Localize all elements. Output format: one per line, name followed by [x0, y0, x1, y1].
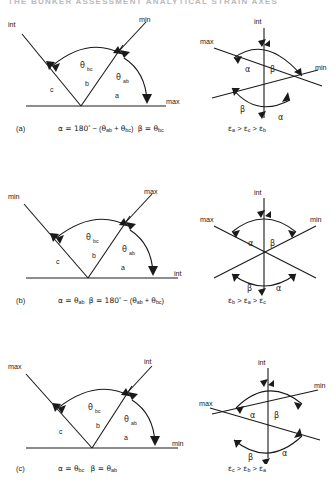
angle-alpha-top-b: α: [248, 239, 253, 248]
formula-a: α = 180° − (θab + θbc) β = θbc: [58, 124, 164, 133]
angle-theta-bc-sub-b: bc: [93, 238, 99, 244]
epsilon-c-op2: >: [253, 464, 257, 473]
formula-c: α = θbc β = θab: [58, 464, 117, 473]
stereonet-a: int max min α β β α: [198, 14, 334, 124]
angle-theta-bc-b: θ: [86, 233, 91, 242]
angle-theta-ab-c: θ: [124, 415, 129, 424]
arrowhead-bot-mid-b: [258, 288, 266, 296]
axis-max-a: [214, 48, 322, 86]
running-head: THE BUNKER ASSESSMENT ANALYTICAL STRAIN …: [0, 0, 336, 9]
fan-diagram-a: int min max c b a θ bc θ ab: [6, 14, 191, 122]
label-min-a: min: [315, 63, 327, 72]
arc-top-c: [236, 391, 302, 408]
angle-beta-top-c: β: [274, 411, 279, 420]
epsilon-a-op2: >: [253, 124, 257, 133]
axis-label-c-a: c: [50, 86, 54, 93]
angle-theta-bc-c: θ: [88, 403, 93, 412]
formula-c-beta: β =: [91, 464, 107, 473]
angle-theta-ab-sub-c: ab: [131, 420, 137, 426]
label-int-c: int: [258, 358, 266, 367]
axis-label-c-c: c: [59, 428, 63, 435]
fan-diagram-b: min max int c b a θ bc θ ab: [6, 186, 191, 294]
arrowhead-bot-mid-a: [258, 111, 266, 119]
angle-theta-bc-sub-c: bc: [95, 408, 101, 414]
arrowhead-top-mid-left-a: [258, 39, 266, 47]
arrowhead-top-mid-right-b: [265, 211, 271, 218]
angle-beta-top-a: β: [270, 65, 275, 74]
epsilon-c-3-sub: a: [263, 467, 266, 473]
figure-row-c: max int min c b a θ bc θ ab int: [0, 352, 336, 482]
formula-a-beta-sub: bc: [158, 127, 164, 133]
formula-b-plus: +: [143, 296, 152, 305]
formula-a-close: ): [131, 124, 134, 133]
tip-label-max-c: max: [8, 362, 22, 371]
angle-beta-bottom-a: β: [240, 105, 245, 114]
angle-theta-ab-b: θ: [122, 245, 127, 254]
tip-label-max-a: max: [166, 97, 180, 106]
row-label-a: (a): [16, 124, 25, 133]
angle-alpha-bottom-b: α: [276, 284, 281, 293]
arrowhead-top-mid-right-c: [268, 380, 274, 387]
arrowhead-ab-bottom-b: [148, 266, 158, 276]
angle-beta-bottom-b: β: [247, 284, 252, 293]
epsilon-b-op1: >: [237, 296, 241, 305]
ray-c-c: [26, 374, 92, 448]
ray-min-a: [119, 22, 146, 51]
arc-theta-bc-a: [52, 47, 122, 66]
tip-label-int-b: int: [174, 269, 182, 278]
running-head-text: THE BUNKER ASSESSMENT ANALYTICAL STRAIN …: [8, 0, 278, 6]
axis-label-c-b: c: [56, 258, 60, 265]
formula-a-open: − (: [90, 124, 101, 133]
formula-a-plus: +: [112, 124, 121, 133]
stereonet-b: int max min α β β α: [198, 186, 334, 296]
tip-label-max-b: max: [144, 187, 158, 196]
axis-label-a-c: a: [124, 434, 128, 441]
ray-max-b: [126, 194, 152, 222]
label-max-b: max: [200, 215, 214, 224]
angle-alpha-top-c: α: [250, 411, 255, 420]
formula-c-alpha-sub: bc: [79, 467, 85, 473]
formula-c-beta-sub: ab: [111, 467, 117, 473]
axis-max-c: [210, 408, 320, 440]
epsilon-a-3-sub: b: [263, 127, 266, 133]
angle-alpha-bottom-a: α: [278, 113, 283, 122]
axis-label-a-a: a: [115, 92, 119, 99]
label-max-a: max: [200, 37, 214, 46]
formula-b-close: ): [162, 296, 165, 305]
fan-diagram-c: max int min c b a θ bc θ ab: [6, 352, 191, 462]
formula-b-alpha: α =: [58, 296, 74, 305]
epsilon-a-op1: >: [237, 124, 241, 133]
label-int-b: int: [254, 188, 262, 197]
tip-label-min-b: min: [8, 192, 20, 201]
arrowhead-ab-bottom-a: [142, 94, 152, 104]
axis-label-a-b: a: [121, 264, 125, 271]
axis-label-b-c: b: [96, 422, 100, 429]
row-label-c: (c): [16, 464, 25, 473]
ray-c-b: [24, 204, 88, 278]
angle-theta-bc-a: θ: [80, 61, 85, 70]
axis-min-c: [212, 390, 318, 414]
angle-theta-ab-a: θ: [116, 73, 121, 82]
arrowhead-bot-left-c: [234, 440, 242, 448]
formula-b-open: − (: [121, 296, 132, 305]
angle-theta-bc-sub-a: bc: [87, 66, 93, 72]
tip-label-min-c: min: [172, 439, 184, 448]
figure-row-b: min max int c b a θ bc θ ab int: [0, 186, 336, 314]
label-max-c: max: [199, 399, 213, 408]
ray-c-a: [22, 34, 81, 106]
angle-alpha-bottom-c: α: [282, 449, 287, 458]
epsilon-c: εc > εb > εa: [228, 464, 266, 473]
formula-b: α = θab β = 180° − (θab + θbc): [58, 296, 164, 305]
epsilon-c-2-sub: b: [247, 467, 250, 473]
epsilon-b-2-sub: a: [248, 299, 251, 305]
angle-theta-ab-sub-a: ab: [123, 78, 129, 84]
row-label-b: (b): [16, 296, 25, 305]
epsilon-c-op1: >: [237, 464, 241, 473]
formula-c-alpha: α =: [58, 464, 74, 473]
axis-label-b-b: b: [92, 252, 96, 259]
axis-min-a: [212, 70, 318, 98]
formula-a-alpha: α = 180: [58, 124, 88, 133]
epsilon-b: εb > εa > εc: [228, 296, 266, 305]
angle-beta-bottom-c: β: [248, 453, 253, 462]
label-min-c: min: [314, 381, 326, 390]
